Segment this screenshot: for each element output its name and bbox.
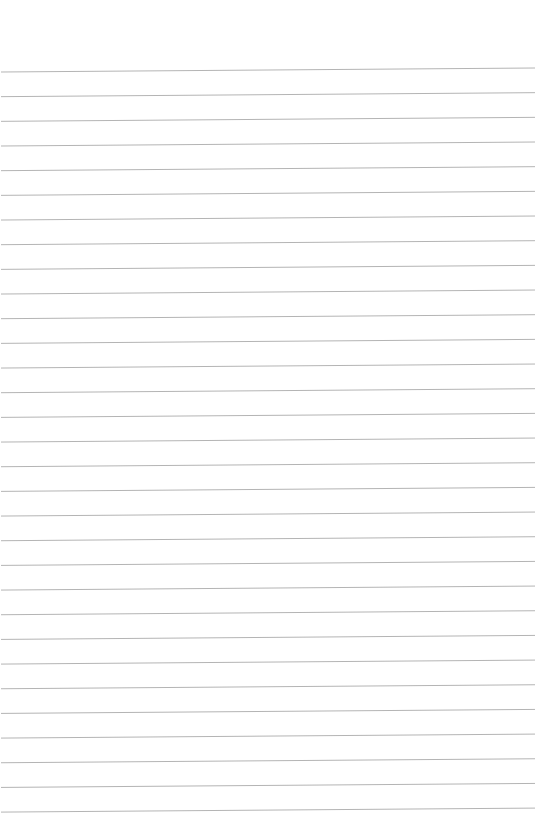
- ruled-line: [1, 389, 535, 393]
- ruled-lines: [0, 0, 536, 834]
- ruled-line: [1, 364, 535, 368]
- ruled-line: [1, 635, 535, 639]
- ruled-line: [1, 191, 535, 195]
- ruled-line: [1, 241, 535, 245]
- ruled-line: [1, 216, 535, 220]
- ruled-line: [1, 463, 535, 467]
- ruled-line: [1, 339, 535, 343]
- ruled-line: [1, 734, 535, 738]
- ruled-line: [1, 808, 535, 812]
- ruled-line: [1, 487, 535, 491]
- ruled-line: [1, 438, 535, 442]
- ruled-line: [1, 290, 535, 294]
- ruled-line: [1, 315, 535, 319]
- ruled-line: [1, 611, 535, 615]
- ruled-paper-page: [0, 0, 536, 834]
- ruled-line: [1, 142, 535, 146]
- ruled-line: [1, 561, 535, 565]
- ruled-line: [1, 512, 535, 516]
- ruled-line: [1, 68, 535, 72]
- ruled-line: [1, 93, 535, 97]
- ruled-line: [1, 586, 535, 590]
- ruled-line: [1, 117, 535, 121]
- ruled-line: [1, 265, 535, 269]
- ruled-line: [1, 413, 535, 417]
- ruled-line: [1, 167, 535, 171]
- ruled-line: [1, 783, 535, 787]
- ruled-line: [1, 537, 535, 541]
- ruled-line: [1, 685, 535, 689]
- ruled-line: [1, 709, 535, 713]
- ruled-line: [1, 759, 535, 763]
- ruled-line: [1, 660, 535, 664]
